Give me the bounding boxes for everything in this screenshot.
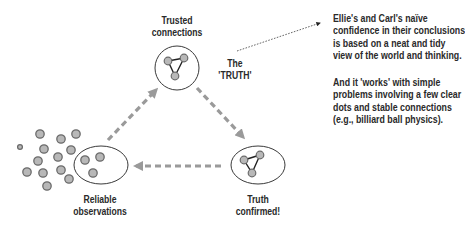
- scattered-dots: [18, 130, 81, 190]
- label-line: 'TRUTH': [215, 69, 256, 81]
- dot-icon: [39, 169, 47, 177]
- connected-triangle-icon: [164, 54, 188, 80]
- truth-confirmed-node: [231, 146, 285, 184]
- note-line: And it 'works' with simple: [333, 76, 461, 88]
- dot-icon: [54, 153, 62, 161]
- note-line: (e.g., billiard ball physics).: [333, 113, 461, 125]
- dot-icon: [36, 130, 44, 138]
- dot-icon: [72, 130, 80, 138]
- truth-confirmed-label: Truth confirmed!: [225, 193, 291, 217]
- note-line: view of the world and thinking.: [333, 49, 461, 61]
- note-paragraph-1: Ellie's and Carl's naïve confidence in t…: [333, 12, 461, 62]
- note-line: confidence in their conclusions: [333, 24, 461, 36]
- arrow-connections-to-confirmed: [197, 88, 243, 137]
- note-line: Ellie's and Carl's naïve: [333, 12, 461, 24]
- note-line: problems involving a few clear: [333, 88, 461, 100]
- connected-triangle-icon: [240, 151, 264, 177]
- dot-icon: [89, 169, 97, 177]
- label-line: connections: [144, 26, 210, 38]
- dot-icon: [81, 156, 89, 164]
- label-line: Trusted: [144, 14, 210, 26]
- reliable-observations-label: Reliable observations: [67, 193, 133, 217]
- note-line: is based on a neat and tidy: [333, 37, 461, 49]
- reliable-observations-node: [74, 146, 128, 184]
- label-line: confirmed!: [225, 205, 291, 217]
- trusted-connections-node: [155, 46, 199, 90]
- trusted-connections-label: Trusted connections: [144, 14, 210, 38]
- arrow-observations-to-connections: [108, 90, 156, 140]
- label-line: Reliable: [67, 193, 133, 205]
- dot-icon: [43, 182, 51, 190]
- label-line: The: [215, 57, 256, 69]
- dot-icon: [18, 145, 23, 150]
- cycle-arrows: [108, 88, 243, 166]
- dot-icon: [34, 157, 42, 165]
- note-paragraph-2: And it 'works' with simple problems invo…: [333, 76, 461, 126]
- dot-icon: [96, 153, 104, 161]
- label-line: observations: [67, 205, 133, 217]
- truth-label: The 'TRUTH': [215, 57, 256, 81]
- dot-icon: [40, 145, 48, 153]
- pointer-arrow: [237, 23, 320, 51]
- note-line: dots and stable connections: [333, 101, 461, 113]
- dot-icon: [57, 135, 65, 143]
- label-line: Truth: [225, 193, 291, 205]
- dot-icon: [23, 168, 31, 176]
- dot-icon: [67, 146, 75, 154]
- dot-icon: [57, 166, 65, 174]
- dot-icon: [65, 175, 73, 183]
